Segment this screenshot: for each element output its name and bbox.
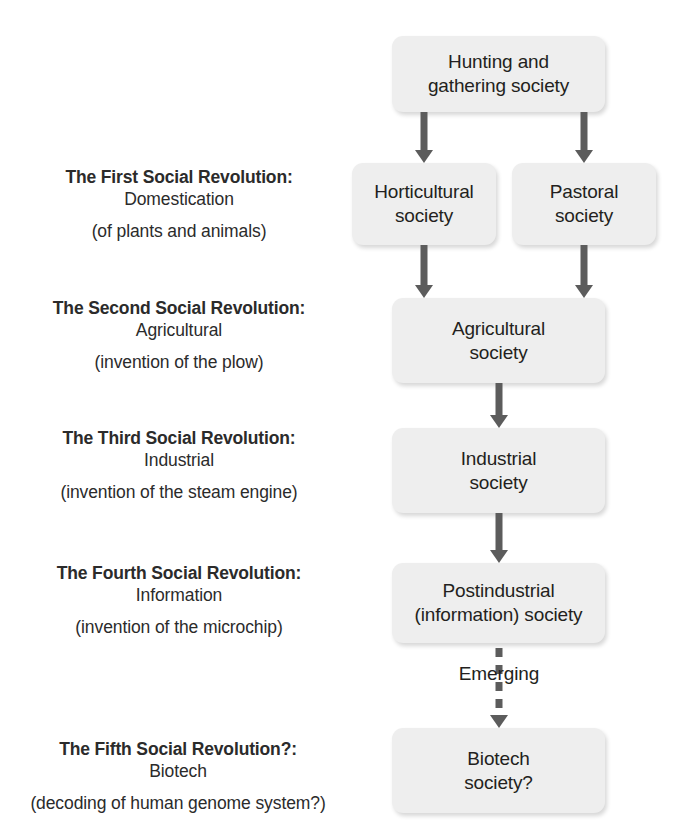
revolution-label-fourth: The Fourth Social Revolution: Informatio… xyxy=(6,562,352,638)
node-postindustrial-society[interactable]: Postindustrial (information) society xyxy=(392,563,605,643)
node-agricultural-society[interactable]: Agricultural society xyxy=(392,298,605,383)
revolution-label-third: The Third Social Revolution: Industrial … xyxy=(6,427,352,503)
revolution-subtitle: Agricultural xyxy=(14,319,344,341)
revolution-note: (invention of the microchip) xyxy=(6,616,352,638)
arrow-industrial-to-postindustrial xyxy=(489,513,509,563)
node-biotech-society[interactable]: Biotech society? xyxy=(392,728,605,813)
revolution-note: (invention of the plow) xyxy=(14,351,344,373)
revolution-title: The First Social Revolution: xyxy=(14,166,344,188)
edge-label-emerging: Emerging xyxy=(399,663,599,685)
arrow-hunting-to-pastoral xyxy=(574,112,594,163)
node-pastoral-society[interactable]: Pastoral society xyxy=(512,163,656,245)
society-evolution-flowchart: The First Social Revolution: Domesticati… xyxy=(0,0,683,840)
revolution-note: (invention of the steam engine) xyxy=(6,481,352,503)
arrow-pastoral-to-agricultural xyxy=(574,245,594,298)
revolution-label-second: The Second Social Revolution: Agricultur… xyxy=(14,297,344,373)
revolution-title: The Fifth Social Revolution?: xyxy=(0,738,356,760)
revolution-title: The Fourth Social Revolution: xyxy=(6,562,352,584)
arrow-shaft xyxy=(581,112,588,150)
revolution-subtitle: Information xyxy=(6,584,352,606)
revolution-subtitle: Domestication xyxy=(14,188,344,210)
arrow-postindustrial-to-biotech xyxy=(489,648,509,728)
revolution-subtitle: Industrial xyxy=(6,449,352,471)
arrow-hunting-to-horticultural xyxy=(414,112,434,163)
arrow-shaft xyxy=(496,513,503,550)
revolution-label-fifth: The Fifth Social Revolution?: Biotech (d… xyxy=(0,738,356,814)
arrow-shaft xyxy=(581,245,588,285)
revolution-label-first: The First Social Revolution: Domesticati… xyxy=(14,166,344,242)
arrow-head xyxy=(490,715,508,728)
revolution-title: The Third Social Revolution: xyxy=(6,427,352,449)
arrow-shaft xyxy=(421,112,428,150)
revolution-title: The Second Social Revolution: xyxy=(14,297,344,319)
arrow-head xyxy=(415,150,433,163)
arrow-head xyxy=(575,150,593,163)
revolution-subtitle: Biotech xyxy=(0,760,356,782)
arrow-horticultural-to-agricultural xyxy=(414,245,434,298)
arrow-shaft xyxy=(421,245,428,285)
arrow-head xyxy=(490,550,508,563)
node-horticultural-society[interactable]: Horticultural society xyxy=(352,163,496,245)
arrow-head xyxy=(575,285,593,298)
node-hunting-and-gathering-society[interactable]: Hunting and gathering society xyxy=(392,36,605,112)
arrow-shaft xyxy=(496,383,503,415)
node-industrial-society[interactable]: Industrial society xyxy=(392,428,605,513)
arrow-head xyxy=(415,285,433,298)
arrow-head xyxy=(490,415,508,428)
revolution-note: (of plants and animals) xyxy=(14,220,344,242)
revolution-note: (decoding of human genome system?) xyxy=(0,792,356,814)
arrow-agricultural-to-industrial xyxy=(489,383,509,428)
